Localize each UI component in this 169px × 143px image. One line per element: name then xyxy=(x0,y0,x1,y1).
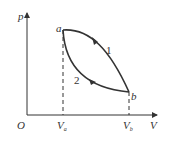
point-b-label: b xyxy=(131,90,137,102)
pv-diagram-canvas: p V O a b 1 2 Va Vb xyxy=(0,0,169,143)
path-2-arrow-icon xyxy=(89,79,96,85)
process-path-2 xyxy=(63,30,129,92)
origin-label: O xyxy=(17,119,25,131)
y-axis-label: p xyxy=(17,10,24,22)
path-1-arrow-icon xyxy=(92,37,98,45)
pv-diagram: p V O a b 1 2 Va Vb xyxy=(0,0,169,143)
vb-tick-label: Vb xyxy=(123,119,133,132)
point-a-label: a xyxy=(56,22,62,34)
path-1-label: 1 xyxy=(106,44,112,56)
x-axis-label: V xyxy=(150,119,158,131)
process-path-1 xyxy=(63,30,129,92)
va-tick-label: Va xyxy=(57,119,67,132)
path-2-label: 2 xyxy=(74,74,80,86)
